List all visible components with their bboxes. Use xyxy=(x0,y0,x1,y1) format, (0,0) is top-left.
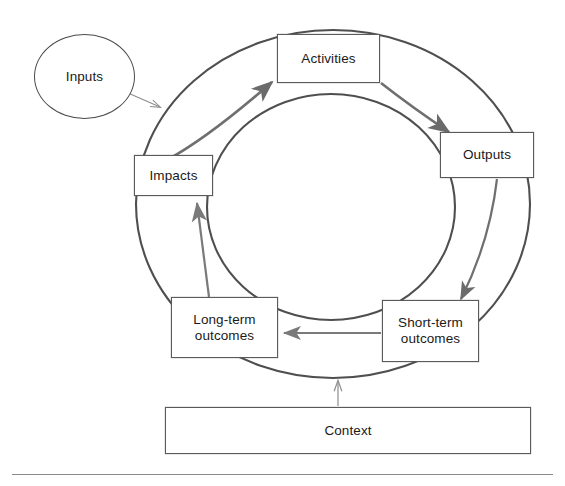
node-context[interactable] xyxy=(165,407,531,454)
inner-ring-circle xyxy=(207,94,455,320)
node-long-term-outcomes[interactable] xyxy=(171,297,278,358)
node-impacts[interactable] xyxy=(134,155,213,196)
node-short-term-outcomes[interactable] xyxy=(382,300,479,362)
node-inputs[interactable] xyxy=(34,34,135,119)
edge-inputs-to-ring xyxy=(128,93,160,107)
footer-divider xyxy=(12,474,553,475)
node-outputs[interactable] xyxy=(440,132,534,178)
edge-outputs-to-short-term xyxy=(461,179,497,299)
diagram-canvas: Inputs Activities Outputs Short-term out… xyxy=(0,0,565,486)
node-activities[interactable] xyxy=(277,34,380,83)
edge-impacts-to-activities xyxy=(167,82,272,160)
